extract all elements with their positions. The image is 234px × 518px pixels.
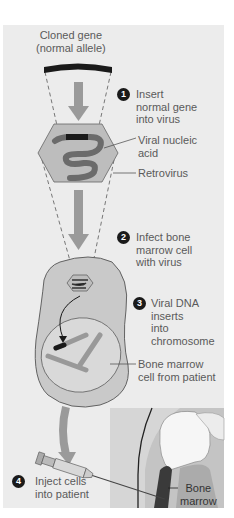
- viral-nucleic-acid-label: Viral nucleic acid: [138, 134, 197, 159]
- step-4-text: Inject cells into patient: [35, 475, 89, 500]
- step-3-badge: 3: [133, 297, 146, 310]
- bone-marrow-label: Bone marrow: [180, 482, 217, 507]
- retrovirus-label: Retrovirus: [138, 167, 188, 180]
- gene-therapy-illustration: [0, 0, 234, 518]
- arrow-1: [68, 82, 89, 121]
- cloned-gene-strand: [44, 64, 112, 74]
- bone-marrow-cell-label: Bone marrow cell from patient: [138, 358, 216, 383]
- step-1-text: Insert normal gene into virus: [136, 88, 197, 126]
- step-1-badge: 1: [117, 88, 130, 101]
- arrow-2: [68, 190, 89, 250]
- step-2-badge: 2: [117, 231, 130, 244]
- step-2-text: Infect bone marrow cell with virus: [136, 231, 192, 269]
- cloned-gene-label: Cloned gene (normal allele): [36, 29, 106, 54]
- step-4-badge: 4: [12, 475, 25, 488]
- step-3-text: Viral DNA inserts into chromosome: [151, 297, 215, 347]
